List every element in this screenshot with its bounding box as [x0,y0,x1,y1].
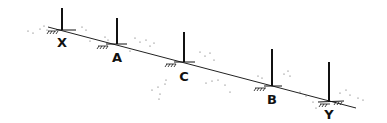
post-x: X [47,8,76,50]
ground-speckles [27,25,363,108]
post-b: B [254,49,282,107]
post-label-y: Y [323,107,334,122]
post-label-b: B [267,92,277,107]
post-y: Y [318,62,344,122]
post-label-x: X [57,35,67,50]
survey-line [48,27,356,108]
post-label-a: A [112,50,122,65]
survey-diagram: X A C B Y [0,0,387,123]
post-c: C [165,32,195,84]
post-label-c: C [179,69,189,84]
